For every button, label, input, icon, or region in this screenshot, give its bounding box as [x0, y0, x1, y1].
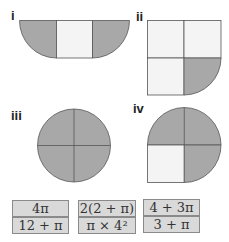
figure-ii	[148, 21, 222, 96]
figure-iv-bottom-right-quarter-circle	[184, 145, 221, 183]
answer-box-4pi[interactable]: 4π	[12, 200, 69, 217]
figure-i-left-quarter	[20, 21, 57, 59]
figure-iii	[38, 109, 111, 182]
answer-box-4-plus-3pi[interactable]: 4 + 3π	[143, 199, 200, 216]
figure-ii-bottom-right-quarter-circle	[184, 58, 221, 95]
figure-ii-bottom-left	[148, 58, 185, 95]
figure-ii-top-right	[184, 21, 221, 59]
answer-box-12-plus-pi[interactable]: 12 + π	[12, 217, 69, 234]
answer-box-pi-times-4-squared[interactable]: π × 4²	[78, 217, 136, 234]
figure-i-right-quarter	[93, 21, 130, 59]
answer-box-3-plus-pi[interactable]: 3 + π	[143, 216, 200, 233]
figure-iv-bottom-left-square	[148, 145, 185, 183]
answer-box-2-2-plus-pi[interactable]: 2(2 + π)	[78, 200, 136, 217]
figure-i	[20, 21, 130, 59]
figure-ii-top-left	[148, 21, 185, 59]
figure-i-middle-square	[57, 21, 93, 59]
figure-iv	[148, 108, 222, 183]
